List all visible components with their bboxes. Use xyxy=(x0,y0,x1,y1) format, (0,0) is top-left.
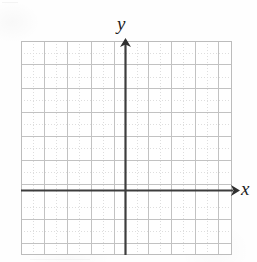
y-axis-label: y xyxy=(117,14,125,33)
coordinate-grid-figure: y x xyxy=(0,0,257,262)
axes-svg xyxy=(0,0,257,262)
x-axis-label: x xyxy=(241,179,249,198)
